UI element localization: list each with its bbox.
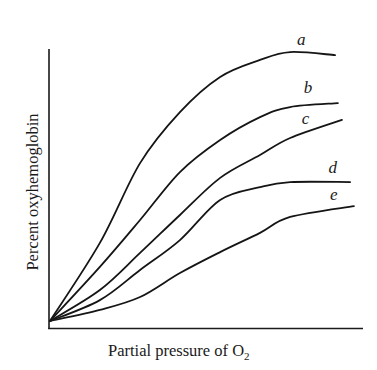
curve-label-d: d — [329, 158, 338, 177]
curve-label-b: b — [304, 78, 313, 97]
x-axis-title-subscript: 2 — [244, 350, 250, 362]
y-axis-title: Percent oxyhemoglobin — [23, 113, 42, 270]
plot-area: abcde — [48, 30, 363, 329]
x-axis-title: Partial pressure of O2 — [108, 341, 250, 362]
curve-label-c: c — [302, 109, 310, 128]
x-axis-title-main: Partial pressure of O — [108, 341, 244, 360]
curve-e — [50, 206, 354, 321]
curve-label-a: a — [297, 30, 306, 49]
curve-c — [50, 120, 342, 321]
curve-labels-group: abcde — [297, 30, 338, 204]
curve-a — [50, 52, 335, 321]
oxyhemoglobin-dissociation-chart: abcde Partial pressure of O2 Percent oxy… — [0, 0, 377, 370]
curve-label-e: e — [330, 185, 338, 204]
